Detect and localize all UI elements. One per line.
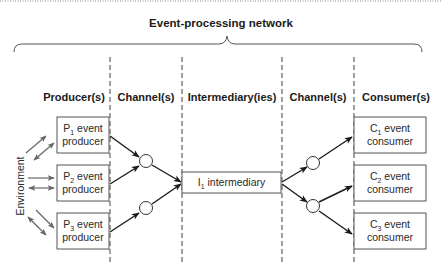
producer-label: P1 event bbox=[63, 122, 103, 136]
diagram-title: Event-processing network bbox=[149, 17, 293, 29]
header-channels-in: Channel(s) bbox=[118, 91, 175, 103]
producer-p2: P2 event producer bbox=[57, 165, 109, 201]
edge-channel-out-1-to-c1 bbox=[319, 137, 352, 159]
intermediary-label: I1 intermediary bbox=[198, 176, 266, 190]
consumer-label: C3 event bbox=[370, 218, 410, 232]
edge-channel-out-2-to-c2 bbox=[319, 186, 352, 202]
producer-sublabel: producer bbox=[62, 135, 104, 147]
env-arrow-to-p1 bbox=[26, 136, 46, 153]
channel-in-1-node bbox=[140, 155, 153, 168]
intermediary-i1: I1 intermediary bbox=[182, 172, 281, 193]
producer-label: P2 event bbox=[63, 170, 103, 184]
channel-out-2-node bbox=[307, 200, 320, 213]
consumer-sublabel: consumer bbox=[367, 231, 414, 243]
producer-p3: P3 event producer bbox=[57, 213, 109, 249]
env-arrow-p3-bidirectional bbox=[28, 217, 46, 235]
producer-sublabel: producer bbox=[62, 183, 104, 195]
consumer-sublabel: consumer bbox=[367, 183, 414, 195]
event-processing-network-diagram: Event-processing network Producer(s) Cha… bbox=[0, 0, 441, 272]
producer-label: P3 event bbox=[63, 218, 103, 232]
edge-channel-out-2-to-c3 bbox=[319, 211, 352, 234]
channel-out-1-node bbox=[307, 157, 320, 170]
header-consumers: Consumer(s) bbox=[362, 91, 430, 103]
consumer-c2: C2 event consumer bbox=[354, 165, 426, 201]
consumer-c1: C1 event consumer bbox=[354, 117, 426, 153]
header-channels-out: Channel(s) bbox=[290, 91, 347, 103]
edge-i1-to-channel-out-1 bbox=[282, 167, 307, 182]
network-brace bbox=[14, 36, 422, 52]
consumer-label: C1 event bbox=[370, 122, 410, 136]
edge-i1-to-channel-out-2 bbox=[282, 184, 307, 202]
producer-p1: P1 event producer bbox=[57, 117, 109, 153]
environment-label: Environment bbox=[14, 156, 26, 215]
edge-p1-to-channel-in-1 bbox=[110, 136, 139, 157]
edge-p3-to-channel-in-2 bbox=[110, 213, 139, 232]
consumer-label: C2 event bbox=[370, 170, 410, 184]
edge-channel-in-1-to-i1 bbox=[152, 165, 181, 182]
consumer-sublabel: consumer bbox=[367, 135, 414, 147]
edge-channel-in-2-to-i1 bbox=[152, 184, 181, 204]
edge-p2-to-channel-in-1 bbox=[110, 166, 139, 184]
producer-sublabel: producer bbox=[62, 231, 104, 243]
consumer-c3: C3 event consumer bbox=[354, 213, 426, 249]
header-producers: Producer(s) bbox=[43, 91, 105, 103]
env-arrow-p1-bidirectional bbox=[34, 143, 54, 160]
header-intermediaries: Intermediary(ies) bbox=[188, 91, 277, 103]
channel-in-2-node bbox=[140, 202, 153, 215]
env-arrow-to-p3 bbox=[36, 210, 54, 228]
environment-arrows bbox=[26, 136, 54, 235]
